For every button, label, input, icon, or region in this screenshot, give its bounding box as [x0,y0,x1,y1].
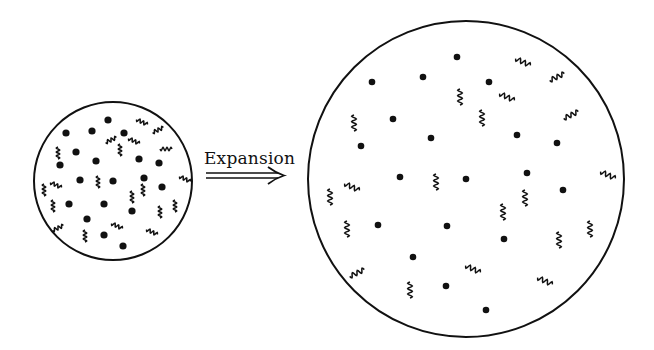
wave-particle [501,204,506,220]
wave-particle [111,222,123,230]
matter-particle [88,127,95,134]
double-arrow-icon [206,167,284,184]
matter-particle [120,129,127,136]
matter-particle [128,207,135,214]
wave-particle [146,228,158,236]
matter-particle [486,79,493,86]
wave-particle [465,264,482,275]
wave-particle [523,190,528,206]
wave-particle [499,92,516,103]
wave-particle [344,182,361,193]
matter-particle [83,215,90,222]
matter-particle [100,200,107,207]
wave-particle [158,206,161,218]
wave-particle [458,89,463,105]
wave-particle [557,232,562,248]
matter-particle [444,223,451,230]
wave-particle [42,184,45,196]
wave-particle [130,191,133,203]
wave-particle [408,282,413,298]
matter-particle [140,174,147,181]
matter-particle [375,222,382,229]
diagram-canvas [0,0,654,350]
matter-particle [554,140,561,147]
wave-particle [173,200,176,212]
matter-particle [369,79,376,86]
wave-particle [549,72,566,83]
wave-particle [96,176,99,188]
matter-particle [135,155,142,162]
wave-particle [105,136,117,144]
matter-particle [524,170,531,177]
wave-particle [51,200,54,212]
matter-particle [56,161,63,168]
matter-particle [358,143,365,150]
matter-particle [501,236,508,243]
wave-particle [128,137,140,145]
matter-particle [72,148,79,155]
matter-particle [155,159,162,166]
matter-particle [119,242,126,249]
matter-particle [483,307,490,314]
matter-particle [463,176,470,183]
wave-particle [160,147,172,150]
matter-particle [62,129,69,136]
wave-particle [136,118,148,126]
wave-particle [563,110,580,121]
matter-particle [65,200,72,207]
wave-particle [600,170,617,181]
wave-particle [179,175,191,183]
wave-particle [52,224,64,232]
wave-particle [588,221,593,237]
matter-particle [100,231,107,238]
wave-particle [537,276,554,287]
small-universe-particles [42,116,191,249]
matter-particle [109,177,116,184]
matter-particle [104,116,111,123]
wave-particle [515,57,532,68]
wave-particle [50,181,62,189]
expansion-diagram: Expansion [0,0,654,350]
wave-particle [345,221,350,237]
matter-particle [420,74,427,81]
wave-particle [83,230,86,242]
matter-particle [397,174,404,181]
matter-particle [410,254,417,261]
expansion-label: Expansion [204,148,295,168]
wave-particle [480,110,485,126]
wave-particle [118,144,121,156]
matter-particle [76,176,83,183]
matter-particle [560,187,567,194]
wave-particle [56,147,59,159]
matter-particle [92,157,99,164]
wave-particle [141,184,144,196]
wave-particle [328,189,333,205]
matter-particle [390,116,397,123]
large-universe-particles [328,54,617,314]
wave-particle [152,126,164,134]
matter-particle [454,54,461,61]
matter-particle [514,132,521,139]
matter-particle [443,283,450,290]
matter-particle [158,183,165,190]
wave-particle [349,268,366,279]
matter-particle [428,135,435,142]
wave-particle [434,174,439,190]
wave-particle [352,115,357,131]
